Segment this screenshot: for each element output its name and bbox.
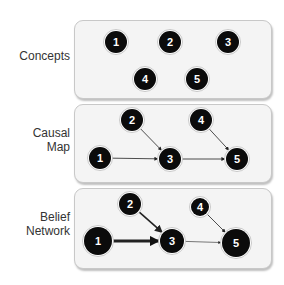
node-label: 4 <box>197 201 204 213</box>
concept-node-1: 1 <box>88 146 113 171</box>
concept-node-3: 3 <box>216 30 241 55</box>
concept-node-2: 2 <box>120 108 145 133</box>
edge-2-to-3 <box>139 212 162 232</box>
concept-node-3: 3 <box>158 147 183 172</box>
edge-3-to-5 <box>185 241 221 242</box>
node-label: 2 <box>167 36 173 48</box>
node-label: 3 <box>169 235 175 247</box>
edge-2-to-3 <box>140 129 161 151</box>
edges-layer <box>112 129 229 243</box>
node-label: 5 <box>194 73 200 85</box>
node-label: 3 <box>225 36 231 48</box>
concept-node-5: 5 <box>221 228 252 259</box>
diagram-canvas: 123452413524135 <box>0 0 284 285</box>
edge-4-to-5 <box>207 214 225 232</box>
concept-node-2: 2 <box>118 192 143 217</box>
node-label: 3 <box>167 153 173 165</box>
node-label: 2 <box>127 198 133 210</box>
node-label: 5 <box>234 153 240 165</box>
node-label: 5 <box>233 237 239 249</box>
node-label: 1 <box>95 235 101 247</box>
concept-node-4: 4 <box>133 67 158 92</box>
concept-node-3: 3 <box>159 228 186 255</box>
edge-1-to-3 <box>112 158 158 159</box>
concept-node-2: 2 <box>158 30 183 55</box>
concept-node-1: 1 <box>104 30 129 55</box>
concept-node-5: 5 <box>225 147 250 172</box>
edge-4-to-5 <box>209 129 229 150</box>
nodes-layer: 123452413524135 <box>83 30 252 259</box>
node-label: 4 <box>198 114 205 126</box>
node-label: 1 <box>113 36 119 48</box>
node-label: 1 <box>97 152 103 164</box>
concept-node-4: 4 <box>189 108 214 133</box>
node-label: 2 <box>129 114 135 126</box>
node-label: 4 <box>142 73 149 85</box>
concept-node-1: 1 <box>83 226 114 257</box>
concept-node-4: 4 <box>190 197 211 218</box>
concept-node-5: 5 <box>185 67 210 92</box>
